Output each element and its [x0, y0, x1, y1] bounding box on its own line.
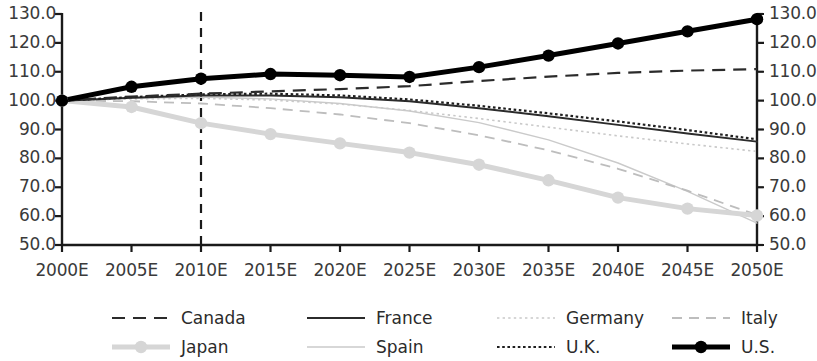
- legend-row-1: CanadaFranceGermanyItaly: [110, 303, 810, 332]
- series-marker-japan-6: [473, 159, 485, 171]
- series-marker-japan-4: [334, 137, 346, 149]
- legend-item-us[interactable]: U.S.: [670, 332, 775, 361]
- y-axis-right-tick-label: 90.0: [769, 119, 806, 139]
- legend-label: Canada: [172, 308, 246, 328]
- x-axis-tick-label: 2015E: [235, 260, 307, 280]
- legend-line-sample: [305, 337, 367, 357]
- y-axis-left-tick-label: 60.0: [0, 205, 56, 225]
- y-axis-left-tick-label: 110.0: [0, 61, 56, 81]
- x-axis-tick-label: 2035E: [513, 260, 585, 280]
- chart-legend: CanadaFranceGermanyItaly JapanSpainU.K.U…: [110, 303, 810, 361]
- x-axis-tick-label: 2010E: [165, 260, 237, 280]
- x-axis-tick-label: 2045E: [652, 260, 724, 280]
- series-marker-us-3: [264, 68, 276, 80]
- y-axis-left-tick-label: 90.0: [0, 119, 56, 139]
- legend-line-sample: [495, 308, 557, 328]
- series-marker-us-6: [473, 61, 485, 73]
- legend-row-2: JapanSpainU.K.U.S.: [110, 332, 810, 361]
- legend-item-italy[interactable]: Italy: [670, 303, 778, 332]
- legend-line-sample: [110, 308, 172, 328]
- x-axis-tick-label: 2050E: [721, 260, 793, 280]
- legend-label: Italy: [732, 308, 778, 328]
- legend-label: Germany: [557, 308, 644, 328]
- thick-black-marker-line-sample: [670, 337, 732, 357]
- legend-item-uk[interactable]: U.K.: [495, 332, 600, 361]
- legend-item-spain[interactable]: Spain: [305, 332, 424, 361]
- thin-light-line-sample: [305, 337, 367, 357]
- series-marker-us-9: [681, 25, 693, 37]
- y-axis-left-tick-label: 120.0: [0, 32, 56, 52]
- y-axis-left-tick-label: 70.0: [0, 176, 56, 196]
- series-marker-japan-8: [612, 191, 624, 203]
- legend-line-sample: [670, 308, 732, 328]
- legend-sample-marker: [695, 340, 707, 352]
- x-axis-tick-label: 2025E: [374, 260, 446, 280]
- thick-light-marker-line-sample: [110, 337, 172, 357]
- y-axis-left-tick-label: 80.0: [0, 147, 56, 167]
- legend-label: Japan: [172, 337, 228, 357]
- series-marker-japan-9: [681, 202, 693, 214]
- y-axis-right-tick-label: 130.0: [769, 3, 817, 23]
- legend-item-canada[interactable]: Canada: [110, 303, 246, 332]
- dashed-dark-line-sample: [110, 308, 172, 328]
- legend-line-sample: [110, 337, 172, 357]
- series-marker-japan-5: [403, 146, 415, 158]
- y-axis-left-tick-label: 100.0: [0, 90, 56, 110]
- x-axis-tick-label: 2000E: [26, 260, 98, 280]
- legend-label: U.S.: [732, 337, 775, 357]
- legend-label: Spain: [367, 337, 424, 357]
- series-marker-japan-3: [264, 128, 276, 140]
- x-axis-tick-label: 2040E: [582, 260, 654, 280]
- series-marker-us-5: [403, 71, 415, 83]
- series-marker-us-0: [56, 94, 68, 106]
- series-marker-us-1: [125, 81, 137, 93]
- series-marker-japan-10: [751, 209, 763, 221]
- y-axis-right-tick-label: 50.0: [769, 234, 806, 254]
- x-axis-tick-label: 2030E: [443, 260, 515, 280]
- legend-label: France: [367, 308, 433, 328]
- series-marker-us-4: [334, 69, 346, 81]
- y-axis-right-tick-label: 70.0: [769, 176, 806, 196]
- y-axis-left-tick-label: 130.0: [0, 3, 56, 23]
- series-marker-japan-7: [542, 174, 554, 186]
- dotted-dark-line-sample: [495, 337, 557, 357]
- y-axis-right-tick-label: 80.0: [769, 147, 806, 167]
- legend-item-japan[interactable]: Japan: [110, 332, 228, 361]
- series-marker-us-10: [751, 13, 763, 25]
- y-axis-right-tick-label: 120.0: [769, 32, 817, 52]
- legend-label: U.K.: [557, 337, 600, 357]
- legend-line-sample: [495, 337, 557, 357]
- series-marker-us-7: [542, 49, 554, 61]
- series-marker-japan-1: [125, 101, 137, 113]
- legend-sample-marker: [135, 340, 147, 352]
- series-line-us: [62, 19, 757, 100]
- y-axis-right-tick-label: 110.0: [769, 61, 817, 81]
- dotted-light-line-sample: [495, 308, 557, 328]
- legend-item-germany[interactable]: Germany: [495, 303, 644, 332]
- dashed-light-line-sample: [670, 308, 732, 328]
- series-marker-us-8: [612, 37, 624, 49]
- y-axis-left-tick-label: 50.0: [0, 234, 56, 254]
- y-axis-right-tick-label: 60.0: [769, 205, 806, 225]
- x-axis-tick-label: 2020E: [304, 260, 376, 280]
- series-marker-us-2: [195, 72, 207, 84]
- legend-item-france[interactable]: France: [305, 303, 433, 332]
- legend-line-sample: [670, 337, 732, 357]
- y-axis-right-tick-label: 100.0: [769, 90, 817, 110]
- series-line-germany: [62, 98, 757, 151]
- x-axis-tick-label: 2005E: [96, 260, 168, 280]
- solid-dark-line-sample: [305, 308, 367, 328]
- series-marker-japan-2: [195, 117, 207, 129]
- legend-line-sample: [305, 308, 367, 328]
